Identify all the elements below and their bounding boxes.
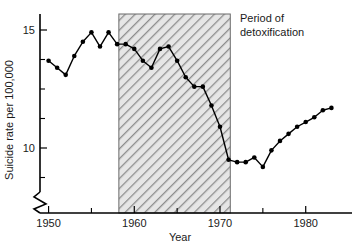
data-point-marker — [218, 124, 223, 129]
y-tick-label: 10 — [23, 142, 35, 154]
data-point-marker — [63, 73, 68, 78]
data-point-marker — [278, 139, 283, 144]
axis-break-icon — [34, 192, 46, 213]
data-point-marker — [192, 84, 197, 89]
data-point-marker — [55, 65, 60, 70]
data-point-marker — [89, 30, 94, 35]
data-point-marker — [106, 30, 111, 35]
data-point-marker — [149, 65, 154, 70]
data-point-marker — [166, 44, 171, 49]
x-tick-label: 1970 — [208, 217, 232, 229]
y-axis-title: Suicide rate per 100,000 — [3, 60, 15, 180]
x-tick-label: 1950 — [36, 217, 60, 229]
data-point-marker — [123, 42, 128, 47]
annotation-line-1: Period of — [240, 12, 285, 24]
detoxification-band-rect — [119, 14, 230, 213]
detoxification-period-band — [119, 14, 230, 213]
data-point-marker — [201, 84, 206, 89]
data-point-marker — [329, 106, 334, 111]
data-point-marker — [295, 124, 300, 129]
x-tick-label: 1980 — [293, 217, 317, 229]
data-point-marker — [81, 40, 86, 45]
annotation-line-2: detoxification — [240, 26, 304, 38]
data-point-marker — [209, 103, 214, 108]
data-point-marker — [141, 58, 146, 63]
data-point-marker — [115, 42, 120, 47]
data-point-marker — [98, 44, 103, 49]
data-point-marker — [243, 160, 248, 165]
data-point-marker — [269, 148, 274, 153]
y-tick-label: 15 — [23, 24, 35, 36]
data-point-marker — [72, 54, 77, 59]
data-point-marker — [312, 115, 317, 120]
data-point-marker — [235, 160, 240, 165]
data-point-marker — [252, 155, 257, 160]
data-point-marker — [303, 120, 308, 125]
data-point-marker — [183, 75, 188, 80]
data-point-marker — [132, 47, 137, 52]
data-point-marker — [226, 158, 231, 163]
data-point-marker — [286, 132, 291, 137]
data-point-marker — [261, 165, 266, 170]
data-point-marker — [175, 58, 180, 63]
data-point-marker — [321, 108, 326, 113]
x-tick-label: 1960 — [122, 217, 146, 229]
suicide-rate-chart: 10151950196019701980 Suicide rate per 10… — [0, 0, 358, 245]
data-point-marker — [46, 58, 51, 63]
x-axis-title: Year — [169, 231, 192, 243]
chart-canvas: 10151950196019701980 Suicide rate per 10… — [0, 0, 358, 245]
data-point-marker — [158, 47, 163, 52]
